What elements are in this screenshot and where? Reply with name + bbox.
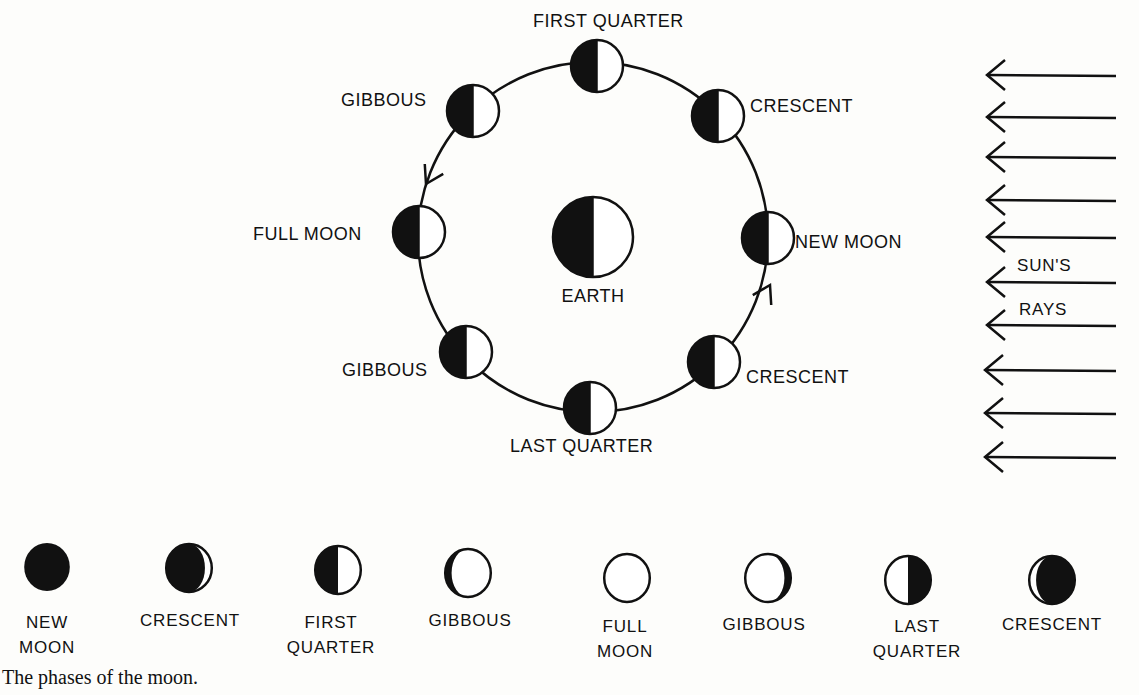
orbit-diagram: EARTHFIRST QUARTERCRESCENTNEW MOONCRESCE… (253, 11, 902, 456)
suns-rays-label: RAYS (1019, 300, 1067, 319)
phase-strip-label: LAST (894, 617, 940, 636)
earth-icon (553, 197, 633, 277)
phase-strip-label: MOON (19, 638, 75, 657)
moon-phase-label: NEW MOON (795, 232, 902, 252)
phase-strip-label: QUARTER (873, 642, 961, 661)
phase-strip-label: CRESCENT (1002, 615, 1102, 634)
moon-icon (440, 326, 492, 378)
phase-strip-label: FULL (603, 617, 648, 636)
sun-ray-arrow-icon (985, 355, 1116, 385)
earth-label: EARTH (561, 286, 624, 306)
sun-ray-arrow-icon (987, 60, 1116, 90)
sun-ray-arrow-icon (987, 185, 1116, 215)
moon-phases-figure: EARTHFIRST QUARTERCRESCENTNEW MOONCRESCE… (0, 0, 1139, 695)
sun-ray-arrow-icon (985, 398, 1116, 428)
phase-waxing-crescent-icon (166, 544, 212, 592)
moon-phase-label: GIBBOUS (341, 90, 427, 110)
moon-phase-label: FULL MOON (253, 224, 362, 244)
phase-strip-label: GIBBOUS (428, 611, 511, 630)
moon-phase-label: LAST QUARTER (510, 436, 653, 456)
moon-icon (742, 212, 794, 264)
phase-waxing-gibbous-icon (445, 549, 491, 597)
moon-icon (564, 382, 616, 434)
sun-ray-arrow-icon (987, 222, 1116, 252)
phase-strip-label: FIRST (304, 613, 357, 632)
phase-waning-gibbous-icon (745, 554, 791, 602)
moon-phases-diagram: EARTHFIRST QUARTERCRESCENTNEW MOONCRESCE… (0, 0, 1139, 695)
phase-strip: NEWMOONCRESCENTFIRSTQUARTERGIBBOUSFULLMO… (19, 543, 1102, 661)
moon-phase-label: CRESCENT (750, 96, 853, 116)
sun-ray-arrow-icon (987, 142, 1116, 172)
phase-strip-label: QUARTER (287, 638, 375, 657)
suns-rays-label: SUN'S (1017, 256, 1071, 275)
moon-phase-label: CRESCENT (746, 367, 849, 387)
phase-full-icon (604, 554, 650, 602)
phase-last-quarter-icon (885, 556, 931, 604)
phase-strip-label: MOON (597, 642, 653, 661)
moon-icon (393, 206, 445, 258)
figure-caption: The phases of the moon. (2, 666, 198, 689)
moon-icon (692, 90, 744, 142)
phase-waning-crescent-icon (1029, 556, 1075, 604)
phase-strip-label: CRESCENT (140, 611, 240, 630)
phase-strip-label: GIBBOUS (722, 615, 805, 634)
sun-ray-arrow-icon (987, 102, 1116, 132)
phase-strip-label: NEW (26, 613, 68, 632)
moon-icon (571, 40, 623, 92)
moon-icon (447, 85, 499, 137)
moon-phase-label: FIRST QUARTER (533, 11, 684, 31)
phase-new-icon (24, 543, 70, 591)
phase-first-quarter-icon (315, 546, 361, 594)
moon-phase-label: GIBBOUS (342, 360, 428, 380)
sun-rays: SUN'SRAYS (985, 60, 1116, 472)
moon-icon (688, 336, 740, 388)
sun-ray-arrow-icon (985, 442, 1116, 472)
